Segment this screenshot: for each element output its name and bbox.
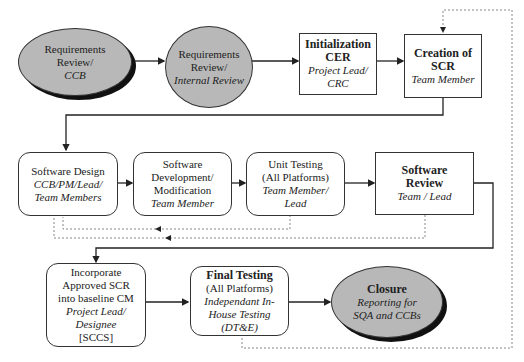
node-text: Creation of xyxy=(414,47,472,60)
arrowhead-feedback-3 xyxy=(440,27,446,33)
node-text: CCB/PM/Lead/ xyxy=(34,178,102,191)
node-text: Software xyxy=(163,158,203,171)
arrowhead-feedback-1 xyxy=(155,226,161,232)
node-text: SCR xyxy=(431,60,455,73)
node-text: (DT&E) xyxy=(221,321,258,334)
node-final-testing: Final Testing (All Platforms) Independan… xyxy=(190,266,289,336)
node-text: Project Lead/ xyxy=(308,64,368,77)
node-text: Team Member xyxy=(151,197,214,210)
node-unit-testing: Unit Testing (All Platforms) Team Member… xyxy=(246,152,345,216)
node-text: Internal Review xyxy=(174,74,244,87)
node-text: Team Member xyxy=(412,73,475,86)
node-text: Approved SCR xyxy=(62,279,130,292)
node-text: CCB xyxy=(64,69,85,82)
node-software-development: Software Development/ Modification Team … xyxy=(133,152,232,216)
node-text: Team / Lead xyxy=(398,190,452,203)
node-text: (All Platforms) xyxy=(262,171,329,184)
node-text: Incorporate xyxy=(71,266,122,279)
node-text: Reporting for xyxy=(357,296,417,309)
node-requirements-review-ccb: Requirements Review/ CCB xyxy=(18,28,132,96)
node-text: Independant In- xyxy=(204,295,275,308)
node-text: Review xyxy=(406,177,443,190)
node-text: [SCCS] xyxy=(79,331,113,344)
node-text: Requirements xyxy=(178,48,239,61)
node-text: CRC xyxy=(327,77,348,90)
node-requirements-review-internal: Requirements Review/ Internal Review xyxy=(165,26,253,108)
node-text: Team Member/ xyxy=(263,184,329,197)
arrow-scr-to-design xyxy=(66,97,443,150)
arrowhead-feedback-2 xyxy=(165,235,171,241)
node-text: Lead xyxy=(285,197,307,210)
node-text: Team Members xyxy=(34,191,101,204)
node-closure: Closure Reporting for SQA and CCBs xyxy=(331,266,443,338)
feedback-review-to-design xyxy=(54,215,425,238)
node-text: CER xyxy=(325,51,350,64)
node-incorporate-approved-scr: Incorporate Approved SCR into baseline C… xyxy=(46,263,146,347)
node-text: Designee xyxy=(76,318,117,331)
node-text: into baseline CM xyxy=(58,292,134,305)
node-text: SQA and CCBs xyxy=(353,309,421,322)
node-text: Modification xyxy=(154,184,211,197)
node-text: Final Testing xyxy=(206,269,272,282)
node-software-review: Software Review Team / Lead xyxy=(375,152,474,215)
node-software-design: Software Design CCB/PM/Lead/ Team Member… xyxy=(18,152,118,216)
node-text: Requirements xyxy=(44,43,105,56)
node-text: Closure xyxy=(367,283,407,296)
node-text: House Testing xyxy=(208,308,270,321)
node-text: Development/ xyxy=(151,171,213,184)
node-text: (All Platforms) xyxy=(206,282,273,295)
feedback-unit-to-design xyxy=(63,215,290,229)
node-initialization-cer: Initialization CER Project Lead/ CRC xyxy=(299,33,377,95)
node-creation-of-scr: Creation of SCR Team Member xyxy=(404,34,482,98)
node-text: Software Design xyxy=(31,165,105,178)
node-text: Project Lead/ xyxy=(66,305,126,318)
node-text: Review/ xyxy=(57,56,94,69)
node-text: Review/ xyxy=(191,61,228,74)
node-text: Unit Testing xyxy=(268,158,322,171)
